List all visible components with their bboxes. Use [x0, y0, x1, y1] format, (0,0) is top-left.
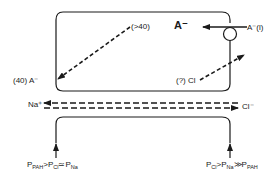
subscript-na: Na: [71, 164, 78, 170]
label-carrier-substrate: A⁻(l): [247, 23, 263, 32]
subscript-pah: PAH: [32, 164, 43, 170]
lower-cell-outline: [56, 117, 230, 143]
label-intracellular-anion: A⁻: [174, 21, 188, 30]
label-chloride-flux: (?) Cl: [176, 76, 196, 85]
carrier-circle-icon: [222, 23, 238, 41]
label-sodium: Na⁺: [28, 100, 42, 109]
left-permeability-relation: PPAH>PCl≃PNa: [27, 160, 78, 170]
operator: ≫: [234, 160, 242, 169]
anion-efflux-arrow: [58, 27, 130, 79]
right-permeability-relation: PCl>PNa≫PPAH: [206, 160, 258, 170]
label-greater-40: (>40): [131, 22, 150, 31]
subscript-pah: PAH: [247, 164, 258, 170]
label-40-anion: (40) A⁻: [13, 76, 38, 85]
subscript-na: Na: [227, 164, 234, 170]
label-chloride: Cl⁻: [242, 102, 254, 111]
chloride-efflux-arrow: [200, 55, 244, 80]
